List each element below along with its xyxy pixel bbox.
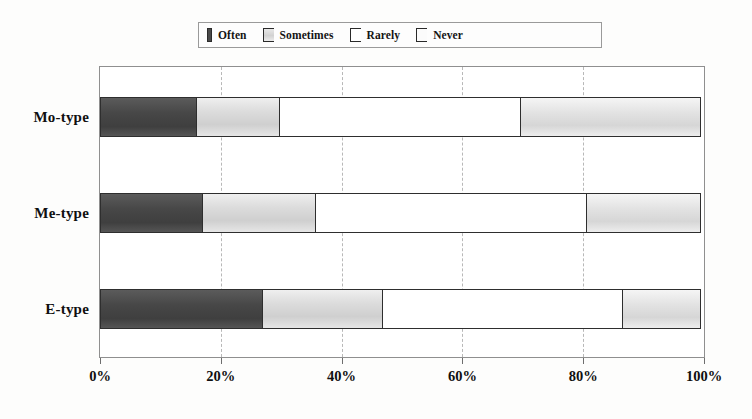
legend-item-never: Never: [416, 28, 463, 42]
legend-item-often: Often: [207, 28, 247, 42]
y-axis-label-mo-type: Mo-type: [0, 109, 89, 126]
plot-area: [99, 66, 705, 358]
bar-segment-e-type-rarely: [382, 289, 624, 329]
legend-item-rarely: Rarely: [350, 28, 401, 42]
bar-e-type: [100, 289, 704, 329]
x-axis-tick-60%: [462, 358, 463, 364]
x-axis-label-1: 20%: [191, 368, 251, 385]
legend-swatch-never-icon: [416, 28, 427, 42]
y-axis-label-e-type: E-type: [0, 301, 89, 318]
bar-me-type: [100, 193, 704, 233]
x-axis-label-4: 80%: [553, 368, 613, 385]
x-axis-tick-100%: [704, 358, 705, 364]
x-axis-tick-40%: [342, 358, 343, 364]
x-axis-label-3: 60%: [432, 368, 492, 385]
y-axis-label-me-type: Me-type: [0, 205, 89, 222]
legend-swatch-often-icon: [207, 28, 212, 42]
x-axis-label-2: 40%: [312, 368, 372, 385]
bar-segment-e-type-sometimes: [262, 289, 383, 329]
bar-segment-me-type-often: [100, 193, 203, 233]
x-axis-tick-20%: [221, 358, 222, 364]
legend-label-never: Never: [433, 29, 463, 41]
bar-segment-me-type-rarely: [315, 193, 587, 233]
legend-label-rarely: Rarely: [367, 29, 401, 41]
bar-segment-e-type-never: [622, 289, 701, 329]
legend-label-often: Often: [218, 29, 247, 41]
bar-segment-me-type-never: [586, 193, 701, 233]
bar-segment-mo-type-sometimes: [196, 97, 281, 137]
legend-label-sometimes: Sometimes: [280, 29, 334, 41]
chart-legend: Often Sometimes Rarely Never: [198, 22, 602, 48]
chart-container: Often Sometimes Rarely Never Mo-type Me-…: [0, 0, 752, 419]
x-axis-tick-80%: [583, 358, 584, 364]
bar-segment-e-type-often: [100, 289, 263, 329]
legend-swatch-rarely-icon: [350, 28, 361, 42]
bar-segment-me-type-sometimes: [202, 193, 317, 233]
bar-segment-mo-type-rarely: [279, 97, 521, 137]
x-axis-tick-0%: [100, 358, 101, 364]
bar-mo-type: [100, 97, 704, 137]
x-axis-label-0: 0%: [70, 368, 130, 385]
x-axis-label-5: 100%: [674, 368, 734, 385]
y-axis-labels: Mo-type Me-type E-type: [0, 0, 99, 419]
legend-swatch-sometimes-icon: [263, 28, 274, 42]
bar-segment-mo-type-often: [100, 97, 197, 137]
bar-segment-mo-type-never: [520, 97, 701, 137]
legend-item-sometimes: Sometimes: [263, 28, 334, 42]
